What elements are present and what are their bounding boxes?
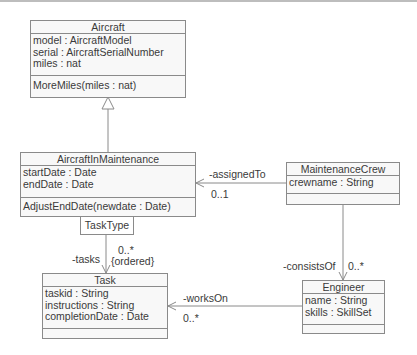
qualifier-task-type[interactable]: TaskType [80, 216, 134, 235]
attribute: taskid : String [45, 288, 165, 300]
generalization-arrow [102, 97, 114, 152]
constraint-ordered: {ordered} [111, 256, 154, 267]
attribute: model : AircraftModel [33, 35, 183, 47]
attributes-compartment: name : String skills : SkillSet [303, 294, 384, 325]
operations-compartment: MoreMiles(miles : nat) [31, 76, 185, 93]
consists-of-association [339, 204, 347, 280]
class-name: Aircraft [31, 21, 185, 34]
class-name: Task [43, 274, 167, 287]
class-aircraft-in-maintenance[interactable]: AircraftInMaintenance startDate : Date e… [20, 152, 196, 217]
role-tasks: -tasks [72, 254, 100, 265]
role-consists-of: -consistsOf [283, 261, 336, 272]
attributes-compartment: model : AircraftModel serial : AircraftS… [31, 34, 185, 76]
operations-compartment [303, 325, 384, 327]
class-task[interactable]: Task taskid : String instructions : Stri… [42, 273, 168, 339]
attributes-compartment: taskid : String instructions : String co… [43, 287, 167, 329]
class-maintenance-crew[interactable]: MaintenanceCrew crewname : String [286, 162, 400, 205]
assigned-to-association [196, 179, 286, 187]
class-name: MaintenanceCrew [287, 163, 399, 176]
role-works-on: -worksOn [183, 293, 228, 304]
attributes-compartment: crewname : String [287, 176, 399, 194]
operation: MoreMiles(miles : nat) [33, 80, 183, 92]
attribute: skills : SkillSet [305, 307, 382, 319]
attributes-compartment: startDate : Date endDate : Date [21, 166, 195, 198]
class-name: AircraftInMaintenance [21, 153, 195, 166]
attribute: startDate : Date [23, 167, 193, 179]
multiplicity-assigned-to: 0..1 [211, 189, 229, 200]
class-name: Engineer [303, 281, 384, 294]
attribute: completionDate : Date [45, 311, 165, 323]
operations-compartment [43, 329, 167, 331]
qualifier-label: TaskType [85, 219, 129, 231]
operation: AdjustEndDate(newdate : Date) [23, 201, 193, 213]
role-assigned-to: -assignedTo [209, 169, 266, 180]
attribute: endDate : Date [23, 179, 193, 191]
attribute: name : String [305, 295, 382, 307]
multiplicity-consists-of: 0..* [348, 261, 364, 272]
tasks-association [102, 235, 110, 273]
attribute: miles : nat [33, 58, 183, 70]
operations-compartment: AdjustEndDate(newdate : Date) [21, 198, 195, 214]
operations-compartment [287, 194, 399, 196]
class-aircraft[interactable]: Aircraft model : AircraftModel serial : … [30, 20, 186, 98]
class-engineer[interactable]: Engineer name : String skills : SkillSet [302, 280, 385, 334]
multiplicity-works-on: 0..* [183, 313, 199, 324]
attribute: crewname : String [289, 177, 397, 189]
